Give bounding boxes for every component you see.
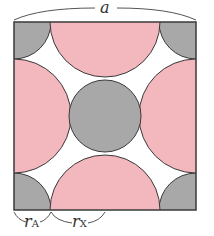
unit-cell-diagram <box>0 0 214 236</box>
label-a: a <box>100 0 110 17</box>
dimension-arc-a-right <box>117 8 196 20</box>
center-cation <box>69 80 141 152</box>
label-rA: rA <box>24 212 39 231</box>
dimension-arc-a <box>14 8 95 20</box>
label-rX: rX <box>72 212 87 231</box>
